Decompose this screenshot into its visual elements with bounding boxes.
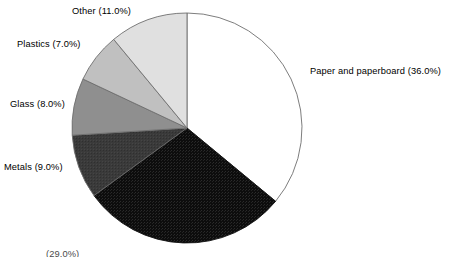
slice-label-other: Other (11.0%) (72, 6, 131, 17)
slice-label-paper-and-paperboard: Paper and paperboard (36.0%) (310, 66, 441, 77)
slice-label-glass: Glass (8.0%) (10, 99, 65, 110)
slice-label-clipped-bottom: (29.0%) (46, 249, 79, 257)
slice-label-metals: Metals (9.0%) (4, 162, 63, 173)
pie-slices (72, 13, 302, 243)
slice-label-plastics: Plastics (7.0%) (17, 39, 81, 50)
pie-chart: Paper and paperboard (36.0%) Other (11.0… (0, 0, 453, 257)
